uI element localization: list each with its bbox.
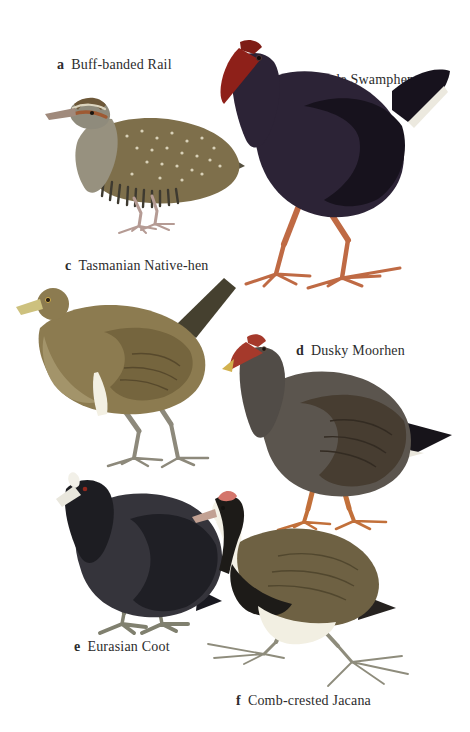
label-name-c: Tasmanian Native-hen [78, 258, 208, 273]
label-name-a: Buff-banded Rail [71, 57, 172, 72]
bird-illustration-tasmanian-native-hen [12, 274, 242, 472]
bird-illustration-purple-swamphen [212, 36, 454, 288]
nativehen-eye [45, 297, 50, 302]
field-guide-plate: aBuff-banded Rail [0, 0, 470, 732]
bird-illustration-comb-crested-jacana [188, 486, 412, 694]
jacana-bill [192, 509, 217, 523]
figure-label-e: eEurasian Coot [74, 639, 170, 655]
label-letter-f: f [236, 693, 241, 708]
coot-eye [83, 487, 88, 492]
moorhen-bill-tip [222, 359, 234, 372]
swamphen-eye [256, 55, 261, 60]
figure-label-a: aBuff-banded Rail [57, 57, 172, 73]
jacana-eye [221, 506, 225, 510]
figure-label-c: cTasmanian Native-hen [65, 258, 209, 274]
label-name-f: Comb-crested Jacana [248, 693, 371, 708]
swamphen-legs [246, 208, 400, 288]
label-letter-e: e [74, 639, 80, 654]
nativehen-head [37, 288, 69, 320]
label-letter-a: a [57, 57, 64, 72]
figure-label-f: fComb-crested Jacana [236, 693, 371, 709]
moorhen-eye [262, 347, 267, 352]
rail-eye [90, 111, 94, 115]
nativehen-bill [16, 299, 43, 315]
label-name-e: Eurasian Coot [87, 639, 169, 654]
label-letter-c: c [65, 258, 71, 273]
